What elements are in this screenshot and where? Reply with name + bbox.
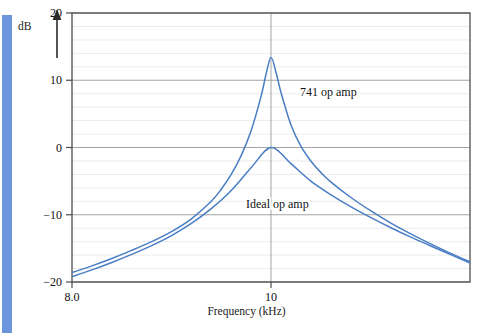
y-axis-unit-text: dB	[18, 20, 31, 32]
y-axis-tick-label: 10	[50, 73, 62, 87]
x-axis-title: Frequency (kHz)	[0, 305, 493, 317]
curve-annotation: 741 op amp741 op amp	[300, 85, 357, 99]
annotation-text: 741 op amp	[300, 85, 357, 99]
chart-canvas: −20−10010208.010741 op amp741 op ampIdea…	[0, 0, 493, 333]
x-axis-tick-label: 8.0	[65, 290, 80, 304]
bode-response-plot: −20−10010208.010741 op amp741 op ampIdea…	[0, 0, 493, 333]
y-axis-tick-label: −20	[43, 275, 62, 289]
y-axis-tick-label: −10	[43, 208, 62, 222]
y-axis-unit-label: dB	[18, 20, 31, 32]
annotation-text: Ideal op amp	[246, 197, 309, 211]
curve-annotation: Ideal op ampIdeal op amp	[246, 197, 309, 211]
x-axis-tick-label: 10	[265, 290, 277, 304]
figure-root: −20−10010208.010741 op amp741 op ampIdea…	[0, 0, 493, 333]
y-axis-tick-label: 0	[56, 141, 62, 155]
